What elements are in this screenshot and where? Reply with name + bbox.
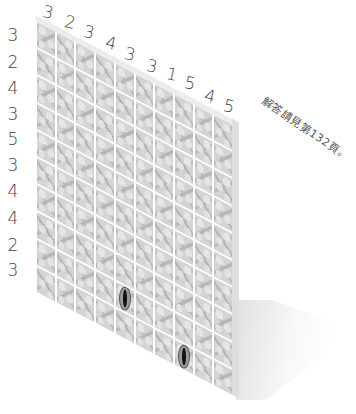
left-clue-1: 3 bbox=[6, 27, 20, 44]
eye-icon bbox=[178, 345, 190, 369]
left-clue-7: 4 bbox=[6, 183, 20, 200]
left-clue-3: 4 bbox=[6, 80, 20, 97]
top-clue-7: 1 bbox=[163, 65, 180, 85]
left-clue-5: 5 bbox=[6, 131, 20, 148]
top-clue-8: 5 bbox=[181, 74, 198, 94]
left-clue-9: 2 bbox=[6, 237, 20, 254]
top-clue-10: 5 bbox=[220, 97, 237, 117]
wall-shadow bbox=[236, 300, 356, 400]
top-clue-2: 2 bbox=[61, 13, 78, 33]
left-clue-4: 3 bbox=[6, 106, 20, 123]
top-clue-4: 4 bbox=[102, 34, 119, 54]
top-clue-5: 3 bbox=[121, 45, 138, 65]
left-clue-2: 2 bbox=[6, 54, 20, 71]
eye-icon bbox=[119, 286, 131, 310]
top-clue-6: 3 bbox=[143, 57, 160, 77]
top-clue-9: 4 bbox=[201, 87, 218, 107]
wall-side-face bbox=[232, 119, 239, 399]
answer-page-note: 解答請見第132頁。 bbox=[259, 92, 353, 163]
top-clue-1: 3 bbox=[39, 3, 56, 23]
puzzle-grid bbox=[37, 22, 232, 395]
left-clue-8: 4 bbox=[6, 210, 20, 227]
puzzle-stage: 3 2 4 3 5 3 4 4 2 3 3 2 3 4 3 3 1 5 4 5 … bbox=[0, 0, 356, 414]
puzzle-wall bbox=[37, 22, 232, 395]
top-clue-3: 3 bbox=[80, 23, 97, 43]
left-clue-10: 3 bbox=[6, 262, 20, 279]
left-clue-6: 3 bbox=[6, 157, 20, 174]
